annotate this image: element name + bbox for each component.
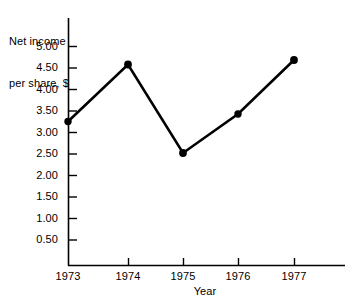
net-income-per-share-chart: Net income per share, $	[0, 0, 354, 303]
y-axis-ticks	[69, 47, 77, 241]
y-axis-label-2.50: 2.50	[12, 147, 58, 159]
x-axis-label-1974: 1974	[104, 270, 152, 282]
y-axis-label-1.50: 1.50	[12, 190, 58, 202]
data-markers	[64, 56, 298, 157]
y-axis-label-4.00: 4.00	[12, 83, 58, 95]
data-point-1974	[124, 61, 132, 69]
y-axis-label-5.00: 5.00	[12, 40, 58, 52]
x-axis-ticks	[129, 258, 295, 265]
x-axis-label-1977: 1977	[270, 270, 318, 282]
data-point-1976	[234, 110, 241, 117]
data-line	[68, 60, 294, 153]
data-point-1973	[64, 118, 71, 125]
y-axis-label-1.00: 1.00	[12, 212, 58, 224]
data-point-1975	[179, 149, 187, 157]
y-axis-label-2.00: 2.00	[12, 169, 58, 181]
x-axis-label-1973: 1973	[44, 270, 92, 282]
y-axis-label-3.50: 3.50	[12, 104, 58, 116]
y-axis-label-3.00: 3.00	[12, 126, 58, 138]
y-axis-label-0.50: 0.50	[12, 233, 58, 245]
x-axis-label-1976: 1976	[214, 270, 262, 282]
data-point-1977	[290, 56, 298, 64]
y-axis-label-4.50: 4.50	[12, 61, 58, 73]
x-axis-title: Year	[165, 285, 245, 297]
x-axis-label-1975: 1975	[159, 270, 207, 282]
